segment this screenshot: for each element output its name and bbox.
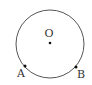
point-b-label: B (77, 68, 85, 81)
point-o-label: O (44, 27, 53, 40)
point-o-dot (49, 42, 52, 45)
point-a-label: A (16, 67, 26, 80)
circle-diagram: O A B (0, 0, 92, 85)
